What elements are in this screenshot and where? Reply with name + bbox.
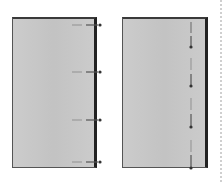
- marker-dot-icon: [189, 125, 192, 128]
- right-arrow-icon: [72, 160, 102, 163]
- right-arrow-icon: [72, 118, 102, 121]
- right-arrow-icon: [72, 70, 102, 73]
- left-arrows: [72, 23, 102, 163]
- right-vertical-line: [189, 22, 192, 170]
- marker-dot-icon: [189, 84, 192, 87]
- marker-dot-icon: [189, 166, 192, 169]
- right-arrow-icon: [72, 23, 102, 26]
- marker-dot-icon: [189, 45, 192, 48]
- page-edge-dotted-border: [220, 0, 222, 183]
- diagram-overlay: [0, 0, 222, 183]
